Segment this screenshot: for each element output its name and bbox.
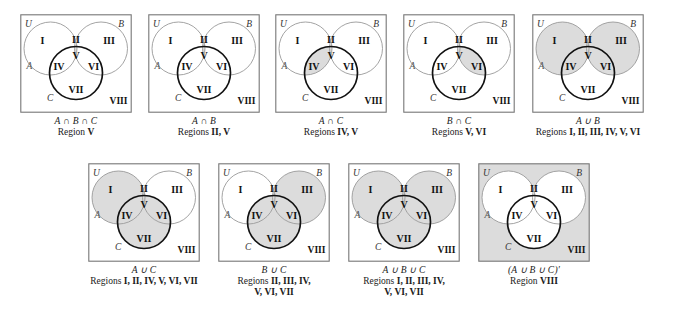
- label-set-a: A: [224, 210, 231, 220]
- region-label-vi: VI: [286, 210, 297, 221]
- label-set-b: B: [246, 19, 252, 29]
- set-expression-b-union-c: B ∪ C: [218, 265, 330, 276]
- region-list-a-int-b-int-c: Region V: [20, 127, 132, 138]
- region-label-v: V: [400, 199, 408, 210]
- set-expression-a-union-c: A ∪ C: [88, 265, 200, 276]
- region-list-a-union-b: Regions I, II, III, IV, V, VI: [532, 127, 644, 138]
- venn-panel-b-union-c: UBACIIIIIIIVVVIVIIVIII B ∪ C Regions II,…: [218, 163, 330, 297]
- region-label-viii: VIII: [568, 245, 586, 255]
- panel-caption: A ∩ B Regions II, V: [148, 116, 260, 138]
- venn-panel-a-int-b-int-c: UBACIIIIIIIVVVIVIIVIII A ∩ B ∩ C Region …: [20, 14, 132, 138]
- venn-diagram-a-int-b-int-c: UBACIIIIIIIVVVIVIIVIII: [20, 14, 132, 113]
- set-expression-a-int-b-int-c: A ∩ B ∩ C: [20, 116, 132, 127]
- region-label-i: I: [369, 184, 373, 195]
- region-list-a-int-b: Regions II, V: [148, 127, 260, 138]
- venn-svg: UBACIIIIIIIVVVIVIIVIII: [218, 163, 330, 262]
- region-list-a-union-b-union-c-complement: Region VIII: [478, 276, 590, 287]
- region-label-vi: VI: [546, 210, 557, 221]
- venn-diagram-a-union-b: UBACIIIIIIIVVVIVIIVIII: [532, 14, 644, 113]
- region-label-v: V: [327, 50, 335, 61]
- label-universe: U: [537, 19, 545, 29]
- label-set-c: C: [175, 93, 182, 103]
- label-set-c: C: [302, 93, 309, 103]
- region-label-iv: IV: [251, 210, 263, 221]
- label-set-c: C: [115, 242, 122, 252]
- label-set-c: C: [47, 93, 54, 103]
- region-label-v: V: [270, 199, 278, 210]
- region-label-iii: III: [301, 184, 313, 195]
- region-label-iv: IV: [511, 210, 523, 221]
- region-label-ii: II: [455, 34, 463, 45]
- label-set-a: A: [281, 61, 288, 71]
- region-label-viii: VIII: [438, 245, 456, 255]
- panel-caption: B ∩ C Regions V, VI: [403, 116, 515, 138]
- label-set-b: B: [373, 19, 379, 29]
- venn-panel-a-union-b-union-c-complement: UBACIIIIIIIVVVIVIIVIII (A ∪ B ∪ C)′ Regi…: [478, 163, 590, 287]
- venn-panel-a-union-b: UBACIIIIIIIVVVIVIIVIII A ∪ B Regions I, …: [532, 14, 644, 138]
- region-label-vi: VI: [600, 61, 611, 72]
- region-label-v: V: [140, 199, 148, 210]
- region-label-ii: II: [72, 34, 80, 45]
- venn-diagram-a-union-b-union-c-complement: UBACIIIIIIIVVVIVIIVIII: [478, 163, 590, 262]
- region-label-v: V: [584, 50, 592, 61]
- region-label-iii: III: [431, 184, 443, 195]
- label-set-a: A: [484, 210, 491, 220]
- region-label-iii: III: [486, 35, 498, 46]
- region-label-ii: II: [140, 183, 148, 194]
- region-list-a-union-b-union-c: Regions I, II, III, IV,V, VI, VII: [348, 276, 460, 297]
- region-label-v: V: [530, 199, 538, 210]
- venn-panel-a-union-c: UBACIIIIIIIVVVIVIIVIII A ∪ C Regions I, …: [88, 163, 200, 287]
- label-set-c: C: [505, 242, 512, 252]
- set-expression-a-int-c: A ∩ C: [275, 116, 387, 127]
- label-set-b: B: [630, 19, 636, 29]
- region-label-viii: VIII: [238, 96, 256, 106]
- set-expression-a-union-b-union-c-complement: (A ∪ B ∪ C)′: [478, 265, 590, 276]
- region-label-ii: II: [400, 183, 408, 194]
- region-label-vii: VII: [266, 233, 281, 244]
- region-label-iv: IV: [565, 61, 577, 72]
- label-set-a: A: [409, 61, 416, 71]
- venn-svg: UBACIIIIIIIVVVIVIIVIII: [275, 14, 387, 113]
- region-label-viii: VIII: [178, 245, 196, 255]
- region-label-iii: III: [103, 35, 115, 46]
- region-label-vii: VII: [68, 84, 83, 95]
- region-label-iv: IV: [181, 61, 193, 72]
- label-universe: U: [280, 19, 288, 29]
- label-set-a: A: [26, 61, 33, 71]
- region-label-vi: VI: [343, 61, 354, 72]
- region-label-viii: VIII: [308, 245, 326, 255]
- venn-diagram-b-int-c: UBACIIIIIIIVVVIVIIVIII: [403, 14, 515, 113]
- region-label-viii: VIII: [493, 96, 511, 106]
- set-expression-a-union-b-union-c: A ∪ B ∪ C: [348, 265, 460, 276]
- region-label-ii: II: [200, 34, 208, 45]
- label-set-a: A: [538, 61, 545, 71]
- region-label-i: I: [239, 184, 243, 195]
- region-label-viii: VIII: [622, 96, 640, 106]
- set-expression-a-union-b: A ∪ B: [532, 116, 644, 127]
- region-label-vi: VI: [88, 61, 99, 72]
- venn-svg: UBACIIIIIIIVVVIVIIVIII: [478, 163, 590, 262]
- panel-caption: A ∩ C Regions IV, V: [275, 116, 387, 138]
- panel-caption: A ∪ C Regions I, II, IV, V, VI, VII: [88, 265, 200, 287]
- region-label-i: I: [169, 35, 173, 46]
- label-set-a: A: [154, 61, 161, 71]
- region-label-v: V: [200, 50, 208, 61]
- region-label-ii: II: [530, 183, 538, 194]
- region-label-ii: II: [584, 34, 592, 45]
- venn-svg: UBACIIIIIIIVVVIVIIVIII: [20, 14, 132, 113]
- region-label-ii: II: [270, 183, 278, 194]
- venn-svg: UBACIIIIIIIVVVIVIIVIII: [403, 14, 515, 113]
- label-universe: U: [25, 19, 33, 29]
- region-label-vii: VII: [526, 233, 541, 244]
- region-label-i: I: [296, 35, 300, 46]
- region-label-vii: VII: [451, 84, 466, 95]
- region-label-vii: VII: [136, 233, 151, 244]
- label-set-b: B: [446, 168, 452, 178]
- venn-svg: UBACIIIIIIIVVVIVIIVIII: [148, 14, 260, 113]
- label-set-b: B: [118, 19, 124, 29]
- venn-svg: UBACIIIIIIIVVVIVIIVIII: [88, 163, 200, 262]
- label-set-b: B: [316, 168, 322, 178]
- region-label-vi: VI: [216, 61, 227, 72]
- region-label-iii: III: [561, 184, 573, 195]
- label-universe: U: [408, 19, 416, 29]
